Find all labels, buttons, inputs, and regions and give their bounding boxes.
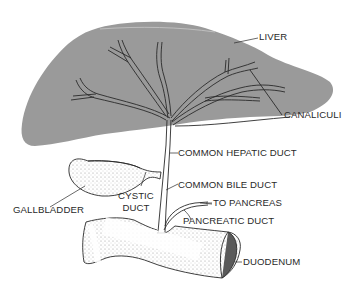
- biliary-system-diagram: LIVER CANALICULI COMMON HEPATIC DUCT COM…: [0, 0, 360, 286]
- label-cystic-duct-line2: DUCT: [116, 203, 156, 213]
- label-liver: LIVER: [259, 32, 287, 42]
- diagram-canvas: [0, 0, 360, 286]
- label-to-pancreas: TO PANCREAS: [213, 198, 282, 208]
- label-common-bile-duct: COMMON BILE DUCT: [178, 180, 277, 190]
- label-duodenum: DUODENUM: [243, 257, 300, 267]
- label-cystic-duct-line1: CYSTIC: [116, 191, 156, 201]
- label-canaliculi: CANALICULI: [284, 110, 342, 120]
- label-common-hepatic-duct: COMMON HEPATIC DUCT: [178, 148, 297, 158]
- label-gallbladder: GALLBLADDER: [13, 205, 84, 215]
- label-pancreatic-duct: PANCREATIC DUCT: [183, 216, 274, 226]
